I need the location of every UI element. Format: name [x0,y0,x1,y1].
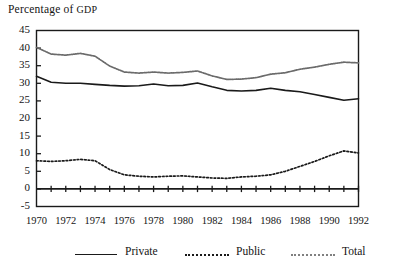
y-tick-label: 20 [4,111,30,123]
series-line-total [37,47,359,79]
y-tick-label: -5 [4,199,30,211]
plot-area: 454035302520151050-5 1970197219741976197… [0,0,393,274]
legend-swatch-private [75,254,117,258]
legend-swatch-public [185,254,229,259]
chart-figure: Percentage of GDP 454035302520151050-5 1… [0,0,393,274]
y-tick-label: 15 [4,129,30,141]
plot-frame [37,31,359,207]
legend-label-total: Total [342,245,365,257]
y-tick-label: 30 [4,76,30,88]
series-line-private [37,76,359,100]
y-tick-label: 5 [4,164,30,176]
plot-svg [0,0,393,274]
legend-label-private: Private [125,245,158,257]
data-series-group [37,47,359,178]
series-line-public [37,151,359,178]
y-tick-label: 40 [4,41,30,53]
legend-label-public: Public [236,245,265,257]
y-tick-label: 0 [4,181,30,193]
y-tick-label: 45 [4,23,30,35]
axis-ticks [37,48,359,192]
y-tick-label: 10 [4,146,30,158]
legend-swatch-total [291,254,335,259]
chart-legend: PrivatePublicTotal [0,243,393,269]
y-tick-label: 35 [4,58,30,70]
x-tick-label: 1992 [342,215,376,226]
y-tick-label: 25 [4,93,30,105]
